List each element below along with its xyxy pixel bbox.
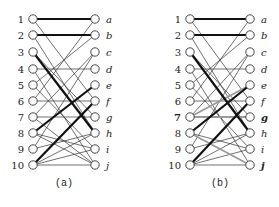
right-node-g bbox=[246, 113, 254, 121]
right-label-b: b bbox=[261, 30, 267, 41]
right-node-a bbox=[246, 15, 254, 23]
left-node-1 bbox=[29, 15, 37, 23]
left-node-3 bbox=[29, 48, 37, 56]
right-label-e: e bbox=[261, 80, 267, 91]
right-node-a bbox=[91, 15, 99, 23]
right-node-b bbox=[91, 31, 99, 39]
right-label-f: f bbox=[105, 96, 112, 107]
left-node-8 bbox=[29, 129, 37, 137]
right-label-j: j bbox=[259, 160, 265, 171]
right-label-j: j bbox=[104, 160, 109, 171]
edge-10-f bbox=[190, 101, 250, 165]
right-label-h: h bbox=[261, 128, 267, 139]
edges bbox=[190, 19, 250, 165]
panel-caption: (b) bbox=[211, 178, 229, 189]
right-label-c: c bbox=[106, 47, 112, 58]
right-node-c bbox=[246, 48, 254, 56]
left-label-8: 8 bbox=[175, 128, 181, 139]
right-label-i: i bbox=[261, 144, 264, 155]
right-label-d: d bbox=[106, 64, 112, 75]
left-node-4 bbox=[186, 65, 194, 73]
left-label-9: 9 bbox=[175, 144, 181, 155]
right-node-f bbox=[246, 97, 254, 105]
right-node-d bbox=[91, 65, 99, 73]
left-node-7 bbox=[29, 113, 37, 121]
left-label-8: 8 bbox=[18, 128, 24, 139]
right-node-h bbox=[246, 129, 254, 137]
left-label-2: 2 bbox=[18, 30, 24, 41]
right-node-g bbox=[91, 113, 99, 121]
right-label-c: c bbox=[261, 47, 267, 58]
right-label-a: a bbox=[106, 14, 112, 25]
right-label-i: i bbox=[106, 144, 109, 155]
left-node-10 bbox=[186, 161, 194, 169]
left-node-10 bbox=[29, 161, 37, 169]
left-label-10: 10 bbox=[11, 160, 24, 171]
left-node-6 bbox=[29, 97, 37, 105]
left-node-8 bbox=[186, 129, 194, 137]
right-label-g: g bbox=[106, 112, 112, 123]
right-node-e bbox=[246, 81, 254, 89]
panel-b: 12345678910abcdefghij(b) bbox=[168, 14, 268, 190]
right-label-f: f bbox=[260, 96, 267, 107]
right-node-e bbox=[91, 81, 99, 89]
left-node-2 bbox=[186, 31, 194, 39]
left-label-4: 4 bbox=[175, 64, 181, 75]
right-node-i bbox=[91, 145, 99, 153]
right-label-d: d bbox=[261, 64, 267, 75]
left-label-1: 1 bbox=[18, 14, 24, 25]
left-label-3: 3 bbox=[18, 47, 24, 58]
panel-a: 12345678910abcdefghij(a) bbox=[11, 14, 112, 190]
left-label-6: 6 bbox=[18, 96, 24, 107]
left-node-2 bbox=[29, 31, 37, 39]
right-label-a: a bbox=[261, 14, 267, 25]
left-node-9 bbox=[186, 145, 194, 153]
left-label-3: 3 bbox=[175, 47, 181, 58]
edge-10-i bbox=[33, 149, 95, 165]
left-node-5 bbox=[186, 81, 194, 89]
right-node-b bbox=[246, 31, 254, 39]
left-label-2: 2 bbox=[175, 30, 181, 41]
left-node-7 bbox=[186, 113, 194, 121]
left-label-6: 6 bbox=[175, 96, 181, 107]
right-label-h: h bbox=[106, 128, 112, 139]
left-node-1 bbox=[186, 15, 194, 23]
left-node-4 bbox=[29, 65, 37, 73]
left-label-4: 4 bbox=[18, 64, 24, 75]
right-node-i bbox=[246, 145, 254, 153]
right-node-f bbox=[91, 97, 99, 105]
left-label-5: 5 bbox=[175, 80, 181, 91]
left-node-9 bbox=[29, 145, 37, 153]
left-label-7: 7 bbox=[18, 112, 24, 123]
right-node-j bbox=[91, 161, 99, 169]
left-label-7: 7 bbox=[174, 112, 181, 123]
right-label-b: b bbox=[106, 30, 112, 41]
right-node-h bbox=[91, 129, 99, 137]
right-label-e: e bbox=[106, 80, 112, 91]
edge-10-f bbox=[33, 101, 95, 165]
left-node-5 bbox=[29, 81, 37, 89]
right-label-g: g bbox=[261, 112, 268, 123]
left-label-5: 5 bbox=[18, 80, 24, 91]
left-node-3 bbox=[186, 48, 194, 56]
panel-caption: (a) bbox=[55, 178, 73, 189]
bipartite-graph-figure: 12345678910abcdefghij(a) 12345678910abcd… bbox=[0, 0, 279, 207]
left-label-10: 10 bbox=[168, 160, 181, 171]
left-label-1: 1 bbox=[175, 14, 181, 25]
right-node-d bbox=[246, 65, 254, 73]
right-node-c bbox=[91, 48, 99, 56]
left-node-6 bbox=[186, 97, 194, 105]
right-node-j bbox=[246, 161, 254, 169]
edges bbox=[33, 19, 95, 165]
left-label-9: 9 bbox=[18, 144, 24, 155]
